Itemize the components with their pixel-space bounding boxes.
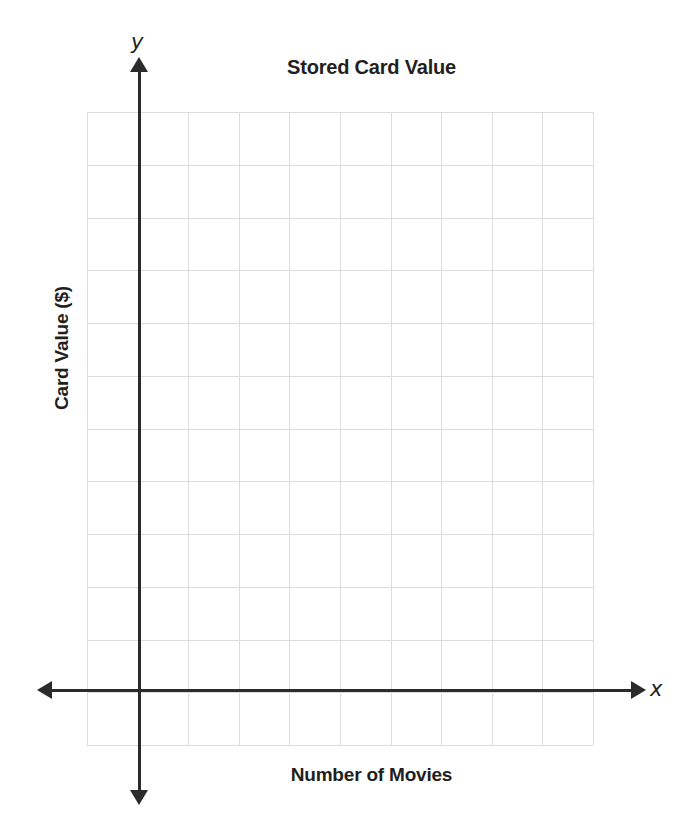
grid-line-horizontal — [87, 481, 593, 482]
y-axis-up-arrow-icon — [130, 57, 148, 72]
x-axis-letter: x — [650, 679, 662, 700]
grid-line-horizontal — [87, 534, 593, 535]
x-axis-left-arrow-icon — [37, 681, 52, 699]
chart-title-text: Stored Card Value — [287, 56, 456, 78]
grid-line-vertical — [593, 112, 594, 745]
grid-line-horizontal — [87, 218, 593, 219]
y-axis-title: Card Value ($) — [51, 286, 73, 410]
x-axis-title: Number of Movies — [0, 764, 699, 786]
plot-grid — [87, 112, 593, 745]
chart-title: Stored Card Value — [0, 56, 699, 79]
y-axis-letter: y — [131, 32, 143, 53]
grid-line-horizontal — [87, 587, 593, 588]
grid-line-horizontal — [87, 270, 593, 271]
grid-line-horizontal — [87, 165, 593, 166]
grid-line-horizontal — [87, 323, 593, 324]
grid-line-horizontal — [87, 745, 593, 746]
grid-line-horizontal — [87, 376, 593, 377]
y-axis-down-arrow-icon — [130, 790, 148, 805]
y-axis-line — [138, 70, 141, 793]
x-axis-title-text: Number of Movies — [291, 764, 453, 785]
x-axis-line — [50, 689, 633, 692]
chart-canvas: Stored Card Value y x Number of Movies C… — [0, 0, 699, 836]
x-axis-right-arrow-icon — [631, 681, 646, 699]
grid-line-horizontal — [87, 112, 593, 113]
grid-line-horizontal — [87, 429, 593, 430]
grid-line-horizontal — [87, 640, 593, 641]
grid-line-horizontal — [87, 692, 593, 693]
